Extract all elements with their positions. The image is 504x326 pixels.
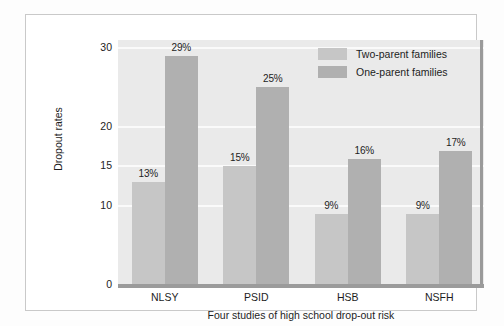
bar-value-label: 13% [126, 168, 171, 179]
bar [348, 159, 381, 285]
bar-value-label: 9% [400, 200, 445, 211]
bar-value-label: 15% [217, 152, 262, 163]
legend-swatch-two-parent [318, 48, 347, 60]
bar [256, 87, 289, 285]
figure-container: 010152030 Dropout rates NLSYPSIDHSBNSFH … [0, 0, 504, 326]
x-axis-title: Four studies of high school drop-out ris… [118, 309, 484, 321]
legend-label-one-parent: One-parent families [356, 66, 448, 78]
bar-value-label: 29% [159, 42, 204, 53]
bar [406, 214, 439, 285]
y-axis-title: Dropout rates [52, 79, 64, 199]
figure-frame: 010152030 Dropout rates NLSYPSIDHSBNSFH … [25, 14, 477, 311]
x-axis-tick-label: PSID [203, 291, 309, 303]
legend: Two-parent families One-parent families [318, 45, 473, 81]
y-axis-tick-label: 15 [100, 159, 112, 171]
legend-label-two-parent: Two-parent families [356, 48, 447, 60]
x-axis-tick-label: NLSY [112, 291, 218, 303]
bar [223, 166, 256, 285]
x-axis-tick-label: HSB [295, 291, 401, 303]
legend-swatch-one-parent [318, 66, 347, 78]
bar [132, 182, 165, 285]
bar [315, 214, 348, 285]
x-axis-line [118, 284, 484, 288]
bar-value-label: 16% [342, 145, 387, 156]
bar [439, 151, 472, 285]
y-axis-tick-label: 10 [100, 199, 112, 211]
bar-value-label: 17% [433, 137, 478, 148]
y-axis-tick-label: 0 [106, 278, 112, 290]
y-axis-ticks: 010152030 [74, 40, 112, 285]
y-axis-tick-label: 20 [100, 120, 112, 132]
plot-right-edge [480, 40, 483, 285]
y-axis-tick-label: 30 [100, 41, 112, 53]
x-axis-tick-label: NSFH [386, 291, 492, 303]
bar-value-label: 25% [250, 73, 295, 84]
bar-value-label: 9% [309, 200, 354, 211]
legend-item-two-parent: Two-parent families [318, 45, 473, 62]
legend-item-one-parent: One-parent families [318, 63, 473, 80]
